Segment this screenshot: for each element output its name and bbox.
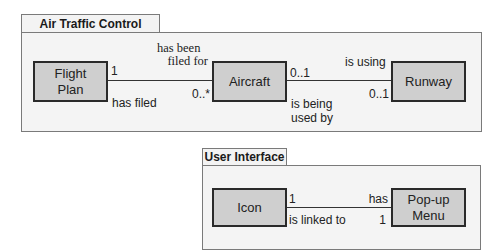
role-line1: is being	[291, 97, 333, 111]
role-has: has	[356, 192, 388, 206]
class-flight-plan-line2: Plan	[55, 82, 87, 98]
multiplicity-popup-menu: 1	[360, 213, 386, 227]
multiplicity-aircraft-to-runway: 0..1	[290, 66, 310, 80]
class-flight-plan-line1: Flight	[55, 66, 87, 82]
association-line-aircraft-runway[interactable]	[287, 80, 391, 81]
class-runway[interactable]: Runway	[391, 61, 466, 102]
role-line2: filed for	[150, 55, 208, 68]
multiplicity-aircraft-from-flightplan: 0..*	[178, 87, 210, 101]
class-aircraft[interactable]: Aircraft	[212, 61, 287, 102]
class-icon-label: Icon	[237, 200, 262, 216]
role-has-been-filed-for: has been filed for	[150, 42, 208, 68]
multiplicity-icon: 1	[289, 192, 296, 206]
role-is-linked-to: is linked to	[289, 213, 346, 227]
role-is-using: is using	[345, 55, 386, 69]
class-popup-menu-line1: Pop-up	[408, 192, 450, 208]
class-flight-plan[interactable]: Flight Plan	[33, 61, 108, 102]
role-line2: used by	[291, 111, 333, 125]
package-tab-air-traffic-control: Air Traffic Control	[21, 14, 160, 33]
multiplicity-runway: 0..1	[355, 87, 389, 101]
association-line-flightplan-aircraft[interactable]	[108, 80, 212, 81]
package-tab-user-interface: User Interface	[202, 148, 287, 166]
association-line-icon-popup[interactable]	[287, 207, 391, 208]
class-popup-menu[interactable]: Pop-up Menu	[391, 188, 466, 227]
class-popup-menu-line2: Menu	[408, 208, 450, 224]
class-aircraft-label: Aircraft	[229, 74, 270, 90]
multiplicity-flightplan: 1	[111, 64, 118, 78]
role-is-being-used-by: is being used by	[291, 97, 333, 125]
role-has-filed: has filed	[112, 96, 157, 110]
class-icon[interactable]: Icon	[212, 188, 287, 227]
class-runway-label: Runway	[405, 74, 452, 90]
